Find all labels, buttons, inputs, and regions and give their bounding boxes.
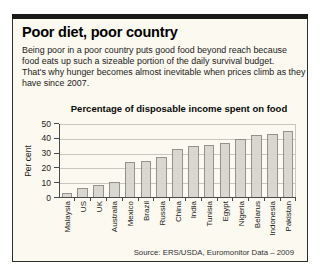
x-axis-label: Nigeria (237, 201, 246, 226)
bar (93, 185, 104, 198)
x-axis-label: Egypt (221, 201, 230, 221)
source-note: Source: ERS/USDA, Euromonitor Data – 200… (134, 248, 294, 257)
x-axis-tick (217, 198, 218, 201)
x-axis-line (59, 197, 296, 198)
bar (172, 149, 183, 198)
x-axis-label: Mexico (126, 201, 135, 226)
top-accent-bar (12, 14, 308, 19)
y-axis-line (59, 124, 60, 198)
bar (267, 134, 278, 198)
x-axis-label: Tunisia (205, 201, 214, 227)
x-axis-tick (138, 198, 139, 201)
x-axis-label: Malaysia (63, 201, 72, 233)
x-axis-tick (153, 198, 154, 201)
x-axis-label: Brazil (142, 201, 151, 221)
x-axis-tick (74, 198, 75, 201)
intro-text: Being poor in a poor country puts good f… (22, 45, 306, 89)
x-axis-label: Pakistan (284, 201, 293, 232)
x-axis-label: UK (95, 201, 104, 212)
y-axis-tick-label: 50 (13, 119, 54, 129)
x-axis-label: Australia (110, 201, 119, 232)
y-axis-tick-label: 30 (13, 148, 54, 158)
y-axis-tick-label: 20 (13, 163, 54, 173)
bar (204, 145, 215, 198)
x-axis-label: Indonesia (268, 201, 277, 236)
x-axis-tick (201, 198, 202, 201)
x-axis-tick (106, 198, 107, 201)
y-axis-tick-label: 10 (13, 178, 54, 188)
bar (283, 131, 294, 198)
bar (251, 135, 262, 198)
card: Poor diet, poor country Being poor in a … (12, 14, 308, 262)
x-axis-label: Russia (158, 201, 167, 225)
x-axis-tick (122, 198, 123, 201)
x-axis-tick (185, 198, 186, 201)
bar (188, 146, 199, 198)
x-axis-tick (232, 198, 233, 201)
x-axis-tick (280, 198, 281, 201)
bar (156, 157, 167, 198)
plot-area (59, 124, 296, 198)
chart-title: Percentage of disposable income spent on… (53, 103, 305, 114)
bar (125, 162, 136, 198)
y-axis-tick-label: 40 (13, 133, 54, 143)
gridline (59, 124, 296, 125)
x-axis-tick (264, 198, 265, 201)
x-axis-tick (169, 198, 170, 201)
x-axis-tick (248, 198, 249, 201)
x-axis-label: US (79, 201, 88, 212)
bar (141, 161, 152, 198)
bar (220, 143, 231, 199)
y-axis-tick-label: 0 (13, 193, 54, 203)
x-axis-label: China (174, 201, 183, 222)
x-axis-tick (295, 198, 296, 201)
page-background: { "header": { "title": "Poor diet, poor … (0, 0, 321, 274)
plot-right-border (295, 124, 296, 198)
x-axis-label: Belarus (253, 201, 262, 228)
x-axis-label: India (189, 201, 198, 218)
bar (235, 139, 246, 198)
x-axis-tick (90, 198, 91, 201)
page-title: Poor diet, poor country (22, 24, 178, 40)
bar (109, 182, 120, 198)
